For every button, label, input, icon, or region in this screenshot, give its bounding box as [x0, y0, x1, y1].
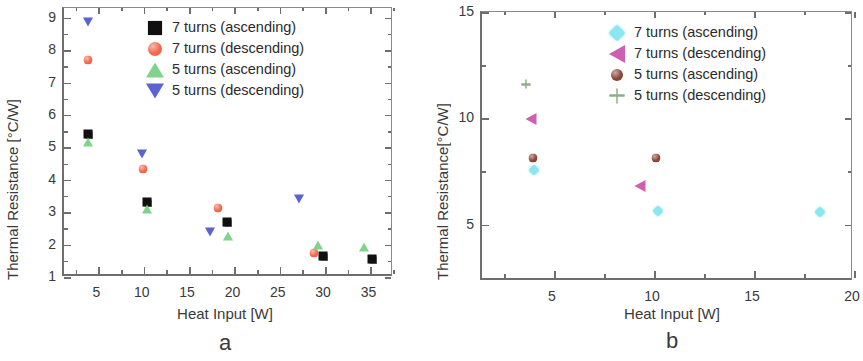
- data-point: [138, 165, 147, 174]
- y-minor-tick: [64, 261, 68, 263]
- legend-label: 7 turns (descending): [634, 43, 766, 64]
- data-point: [526, 113, 537, 125]
- x-major-tick: [654, 271, 656, 278]
- x-major-tick: [234, 8, 236, 14]
- x-minor-tick: [804, 12, 806, 15]
- data-point: [319, 251, 328, 260]
- y-major-tick: [385, 18, 391, 20]
- x-minor-tick: [166, 270, 168, 274]
- x-major-tick: [370, 267, 372, 274]
- data-point: [310, 249, 319, 258]
- legend-marker-square-icon: [138, 17, 172, 38]
- x-minor-tick: [704, 12, 706, 15]
- x-major-tick: [554, 12, 556, 18]
- x-minor-tick: [504, 274, 506, 278]
- x-minor-tick: [212, 8, 214, 11]
- x-minor-tick: [348, 8, 350, 11]
- panel-b-x-axis-label: Heat Input [W]: [542, 305, 802, 322]
- y-major-tick: [385, 83, 391, 85]
- legend-item: 5 turns (descending): [600, 85, 766, 106]
- y-tick-label: 1: [22, 268, 56, 284]
- data-point: [359, 243, 369, 252]
- y-major-tick: [385, 50, 391, 52]
- x-major-tick: [189, 267, 191, 274]
- x-tick-label: 10: [644, 288, 660, 304]
- x-minor-tick: [212, 270, 214, 274]
- panel-a-legend: 7 turns (ascending)7 turns (descending)5…: [138, 17, 304, 101]
- legend-marker-circle-icon: [600, 64, 634, 85]
- legend-label: 5 turns (ascending): [634, 64, 758, 85]
- y-major-tick: [385, 212, 391, 214]
- legend-marker-triangle-down-icon: [146, 83, 164, 98]
- y-tick-label: 2: [22, 236, 56, 252]
- y-minor-tick: [64, 34, 68, 36]
- legend-item: 7 turns (ascending): [600, 22, 766, 43]
- x-minor-tick: [348, 270, 350, 274]
- x-minor-tick: [257, 270, 259, 274]
- x-major-tick: [554, 271, 556, 278]
- x-minor-tick: [393, 8, 395, 11]
- data-point: [814, 207, 825, 218]
- legend-label: 7 turns (ascending): [634, 22, 758, 43]
- y-minor-tick: [388, 99, 391, 101]
- legend-item: 7 turns (ascending): [138, 17, 304, 38]
- x-tick-label: 35: [361, 284, 377, 300]
- y-minor-tick: [482, 171, 486, 173]
- legend-marker-circle-icon: [138, 38, 172, 59]
- panel-b-legend: 7 turns (ascending)7 turns (descending)5…: [600, 22, 766, 106]
- legend-label: 5 turns (descending): [172, 80, 304, 101]
- y-minor-tick: [64, 164, 68, 166]
- data-point: [205, 227, 215, 236]
- y-tick-label: 4: [22, 171, 56, 187]
- x-minor-tick: [76, 8, 78, 11]
- y-major-tick: [385, 147, 391, 149]
- legend-item: 5 turns (descending): [138, 80, 304, 101]
- legend-marker-plus-icon: [610, 88, 625, 103]
- y-minor-tick: [64, 196, 68, 198]
- y-tick-label: 3: [22, 203, 56, 219]
- x-minor-tick: [804, 274, 806, 278]
- x-minor-tick: [504, 12, 506, 15]
- y-minor-tick: [848, 65, 851, 67]
- x-major-tick: [654, 12, 656, 18]
- y-minor-tick: [388, 164, 391, 166]
- x-major-tick: [280, 267, 282, 274]
- x-major-tick: [854, 12, 856, 18]
- y-minor-tick: [388, 261, 391, 263]
- y-major-tick: [64, 83, 71, 85]
- y-minor-tick: [388, 66, 391, 68]
- data-point: [635, 180, 646, 192]
- panel-b-letter: b: [542, 328, 802, 354]
- x-minor-tick: [76, 270, 78, 274]
- y-major-tick: [385, 180, 391, 182]
- x-major-tick: [370, 8, 372, 14]
- data-point: [137, 149, 147, 158]
- y-minor-tick: [482, 65, 486, 67]
- x-tick-label: 5: [548, 288, 556, 304]
- y-tick-label: 8: [22, 41, 56, 57]
- x-major-tick: [754, 12, 756, 18]
- data-point: [368, 255, 377, 264]
- x-minor-tick: [604, 274, 606, 278]
- legend-marker-triangle-up-icon: [146, 62, 164, 77]
- x-minor-tick: [257, 8, 259, 11]
- legend-marker-triangle-up-icon: [138, 59, 172, 80]
- panel-b: Thermal Resistance[°C/W] Heat Input [W] …: [432, 0, 863, 361]
- y-major-tick: [64, 147, 71, 149]
- legend-item: 5 turns (ascending): [600, 64, 766, 85]
- y-major-tick: [64, 18, 71, 20]
- data-point: [223, 218, 232, 227]
- y-minor-tick: [64, 228, 68, 230]
- y-major-tick: [845, 225, 851, 227]
- legend-marker-triangle-left-icon: [600, 43, 634, 64]
- data-point: [214, 203, 223, 212]
- legend-item: 7 turns (descending): [138, 38, 304, 59]
- y-minor-tick: [482, 278, 486, 280]
- data-point: [294, 195, 304, 204]
- y-tick-label: 10: [440, 109, 474, 125]
- legend-item: 5 turns (ascending): [138, 59, 304, 80]
- y-tick-label: 9: [22, 9, 56, 25]
- y-major-tick: [482, 12, 489, 14]
- data-point: [652, 205, 663, 216]
- data-point: [522, 80, 531, 89]
